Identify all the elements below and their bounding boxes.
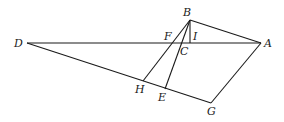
label-I: I [192,30,198,43]
geometry-diagram: D A B F I C H E G [0,0,284,122]
label-B: B [182,6,191,19]
label-G: G [207,105,216,118]
segment-BA [190,20,261,43]
label-H: H [134,83,145,96]
diagram-svg: D A B F I C H E G [0,0,284,122]
label-C: C [180,45,189,58]
labels-group: D A B F I C H E G [13,6,272,118]
segment-AG [211,43,261,103]
label-D: D [13,37,23,50]
label-E: E [157,91,166,104]
label-F: F [163,30,172,43]
label-A: A [263,37,272,50]
